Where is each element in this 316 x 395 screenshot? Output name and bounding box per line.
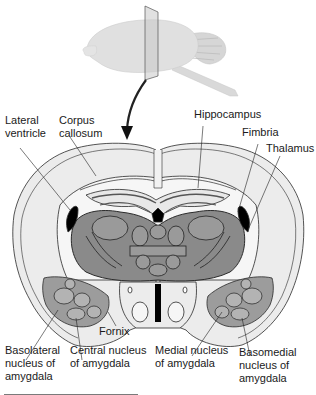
arrow-icon [121,80,146,140]
label-basolateral-nucleus: Basolateral nucleus of amygdala [5,344,60,383]
label-fornix: Fornix [99,325,130,338]
coronal-section [13,143,304,346]
brain-3d-view [83,6,238,96]
label-corpus-callosum: Corpus callosum [59,114,102,140]
label-hippocampus: Hippocampus [194,108,261,121]
label-thalamus: Thalamus [266,142,314,155]
label-central-nucleus: Central nucleus of amygdala [70,344,146,370]
label-medial-nucleus: Medial nucleus of amygdala [155,344,228,370]
label-fimbria: Fimbria [242,126,279,139]
label-lateral-ventricle: Lateral ventricle [5,114,46,140]
label-basomedial-nucleus: Basomedial nucleus of amygdala [239,346,296,385]
brain-diagram [0,0,316,395]
